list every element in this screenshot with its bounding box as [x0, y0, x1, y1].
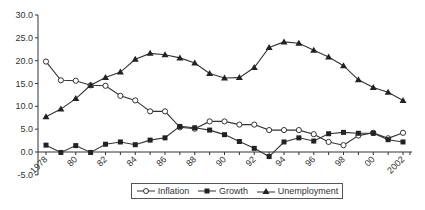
- data-point-inflation: [326, 139, 331, 144]
- data-point-inflation: [252, 122, 257, 127]
- data-point-growth: [207, 128, 212, 133]
- y-tick-label: 30.0: [15, 10, 33, 20]
- data-point-growth: [118, 139, 123, 144]
- data-point-inflation: [267, 127, 272, 132]
- data-point-inflation: [400, 130, 405, 135]
- data-point-unemployment: [57, 106, 64, 112]
- plot-area: -5.00.05.010.015.020.025.030.01978808284…: [0, 0, 425, 182]
- x-tick-label: 00: [363, 154, 377, 168]
- data-point-inflation: [222, 119, 227, 124]
- open-circle-marker-icon: [136, 187, 156, 195]
- data-point-inflation: [148, 109, 153, 114]
- x-tick-label: 98: [333, 154, 347, 168]
- data-point-inflation: [43, 59, 48, 64]
- x-tick-label: 84: [125, 154, 139, 168]
- data-point-inflation: [296, 127, 301, 132]
- data-point-unemployment: [43, 113, 50, 119]
- data-point-growth: [177, 124, 182, 129]
- data-point-growth: [326, 131, 331, 136]
- y-tick-label: 0.0: [20, 147, 33, 157]
- data-point-growth: [88, 150, 93, 155]
- data-point-inflation: [162, 109, 167, 114]
- x-tick-label: 92: [244, 154, 258, 168]
- data-point-growth: [282, 139, 287, 144]
- data-point-growth: [58, 150, 63, 155]
- data-point-inflation: [311, 132, 316, 137]
- data-point-unemployment: [310, 47, 317, 53]
- legend-label: Growth: [219, 186, 248, 196]
- data-point-unemployment: [281, 38, 288, 44]
- data-point-growth: [386, 137, 391, 142]
- data-point-growth: [267, 154, 272, 159]
- y-tick-label: 15.0: [15, 79, 33, 89]
- data-point-unemployment: [147, 50, 154, 56]
- data-point-inflation: [281, 127, 286, 132]
- data-point-inflation: [118, 93, 123, 98]
- y-tick-label: 5.0: [20, 124, 33, 134]
- data-point-growth: [252, 146, 257, 151]
- x-tick-label: 90: [214, 154, 228, 168]
- legend-label: Unemployment: [278, 186, 339, 196]
- data-point-inflation: [133, 98, 138, 103]
- y-tick-label: 25.0: [15, 33, 33, 43]
- legend-item-inflation: Inflation: [136, 186, 190, 196]
- data-point-growth: [192, 125, 197, 130]
- y-tick-label: 10.0: [15, 101, 33, 111]
- filled-triangle-marker-icon: [256, 187, 276, 195]
- x-tick-label: 80: [65, 154, 79, 168]
- data-point-unemployment: [236, 74, 243, 80]
- data-point-inflation: [207, 119, 212, 124]
- data-point-growth: [103, 142, 108, 147]
- data-point-growth: [356, 131, 361, 136]
- x-tick-label: 1978: [28, 154, 49, 175]
- data-point-inflation: [341, 143, 346, 148]
- x-tick-label: 96: [303, 154, 317, 168]
- data-point-growth: [148, 138, 153, 143]
- data-point-growth: [311, 139, 316, 144]
- data-point-growth: [222, 132, 227, 137]
- data-point-growth: [163, 135, 168, 140]
- data-point-inflation: [103, 83, 108, 88]
- x-tick-label: 88: [184, 154, 198, 168]
- data-point-growth: [401, 139, 406, 144]
- x-tick-label: 94: [273, 154, 287, 168]
- y-tick-label: 20.0: [15, 56, 33, 66]
- data-point-growth: [133, 142, 138, 147]
- data-point-inflation: [58, 78, 63, 83]
- data-point-growth: [237, 139, 242, 144]
- data-point-inflation: [73, 78, 78, 83]
- legend-label: Inflation: [158, 186, 190, 196]
- x-tick-label: 86: [154, 154, 168, 168]
- data-point-growth: [44, 143, 49, 148]
- data-point-unemployment: [340, 62, 347, 68]
- data-point-unemployment: [370, 84, 377, 90]
- data-point-unemployment: [400, 97, 407, 103]
- data-point-growth: [341, 130, 346, 135]
- data-point-unemployment: [325, 54, 332, 60]
- line-chart: -5.00.05.010.015.020.025.030.01978808284…: [0, 0, 425, 210]
- legend: Inflation Growth Unemployment: [131, 183, 343, 199]
- data-point-inflation: [237, 122, 242, 127]
- x-tick-label: 2002: [385, 154, 406, 175]
- data-point-growth: [73, 143, 78, 148]
- x-tick-label: 82: [95, 154, 109, 168]
- data-point-unemployment: [206, 70, 213, 76]
- data-point-growth: [371, 131, 376, 136]
- data-point-growth: [296, 135, 301, 140]
- filled-square-marker-icon: [197, 187, 217, 195]
- legend-item-unemployment: Unemployment: [256, 186, 339, 196]
- legend-item-growth: Growth: [197, 186, 248, 196]
